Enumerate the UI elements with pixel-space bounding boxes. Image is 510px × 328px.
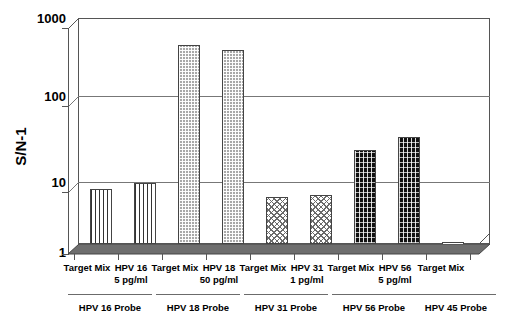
x-tickmark-3 xyxy=(206,254,207,260)
axis-corner-bottom xyxy=(478,232,492,246)
plot-floor xyxy=(68,244,490,254)
bar-0 xyxy=(90,189,112,244)
probe-group-1-rule xyxy=(156,294,240,295)
x-label-3-line2: 50 pg/ml xyxy=(188,274,250,286)
x-tickmark-9 xyxy=(470,254,471,260)
chart-figure: S/N-1 1000 100 10 1 xyxy=(0,0,510,328)
y-tick-label-1000: 1000 xyxy=(20,12,66,25)
bar-4 xyxy=(266,197,288,244)
x-axis-labels: Target Mix HPV 16 5 pg/ml Target Mix HPV… xyxy=(0,262,510,296)
y-tick-label-1: 1 xyxy=(20,246,66,259)
x-tickmark-1 xyxy=(118,254,119,260)
probe-groups: HPV 16 Probe HPV 18 Probe HPV 31 Probe H… xyxy=(0,294,510,328)
bar-2 xyxy=(178,45,200,244)
gridline-100-leader xyxy=(68,96,80,108)
x-tickmark-6 xyxy=(338,254,339,260)
y-tickmark-1000 xyxy=(62,28,69,29)
y-tick-label-10: 10 xyxy=(20,176,66,189)
y-axis-line xyxy=(68,28,79,254)
probe-group-4-label: HPV 45 Probe xyxy=(406,302,506,313)
probe-group-3-rule xyxy=(332,294,416,295)
x-label-5-line2: 1 pg/ml xyxy=(276,274,338,286)
x-tickmark-7 xyxy=(382,254,383,260)
bar-3 xyxy=(222,50,244,244)
bar-8 xyxy=(442,242,464,244)
probe-group-4: HPV 45 Probe xyxy=(406,294,506,313)
x-tickmark-4 xyxy=(250,254,251,260)
bar-1 xyxy=(134,183,156,244)
plot-area xyxy=(68,18,490,254)
x-label-8: Target Mix xyxy=(408,262,474,274)
x-label-5-line1: HPV 31 xyxy=(291,262,324,273)
x-label-1-line2: 5 pg/ml xyxy=(100,274,162,286)
gridline-100 xyxy=(78,96,490,97)
x-label-8-line1: Target Mix xyxy=(418,262,465,273)
x-tickmark-2 xyxy=(162,254,163,260)
probe-group-2-rule xyxy=(244,294,328,295)
x-tickmark-5 xyxy=(294,254,295,260)
gridline-10-leader xyxy=(68,182,80,194)
y-tickmark-10 xyxy=(62,192,69,193)
x-label-3-line1: HPV 18 xyxy=(203,262,236,273)
x-label-7-line2: 5 pg/ml xyxy=(364,274,426,286)
probe-group-4-rule xyxy=(416,294,496,295)
x-tickmark-0 xyxy=(74,254,75,260)
x-tickmark-8 xyxy=(426,254,427,260)
x-label-7-line1: HPV 56 xyxy=(379,262,412,273)
probe-group-0-rule xyxy=(68,294,152,295)
x-label-1-line1: HPV 16 xyxy=(115,262,148,273)
bar-5 xyxy=(310,195,332,244)
bar-7 xyxy=(398,137,420,244)
bar-6 xyxy=(354,150,376,244)
y-tickmark-100 xyxy=(62,106,69,107)
y-tick-label-100: 100 xyxy=(20,90,66,103)
